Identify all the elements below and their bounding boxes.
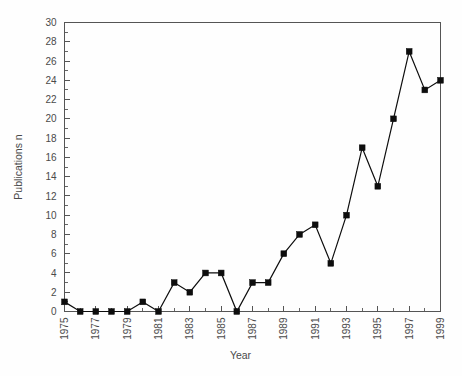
x-tick-label: 1985 — [216, 317, 227, 340]
x-tick-label: 1991 — [310, 317, 321, 340]
data-point-marker — [77, 309, 83, 315]
y-axis-title: Publications n — [12, 134, 24, 200]
y-tick-label: 6 — [51, 248, 57, 259]
y-tick-label: 10 — [45, 210, 57, 221]
y-tick-label: 24 — [45, 75, 57, 86]
y-tick-label: 14 — [45, 171, 57, 182]
data-point-marker — [109, 309, 115, 315]
data-point-marker — [344, 212, 350, 218]
x-tick-label: 1979 — [122, 317, 133, 340]
y-tick-label: 18 — [45, 133, 57, 144]
data-point-marker — [297, 232, 303, 238]
data-point-marker — [140, 299, 146, 305]
data-point-marker — [406, 49, 412, 55]
data-point-marker — [171, 280, 177, 286]
chart-svg: 024681012141618202224262830 197519771979… — [0, 0, 462, 376]
publications-line-chart: 024681012141618202224262830 197519771979… — [0, 0, 462, 376]
x-tick-label: 1981 — [153, 317, 164, 340]
data-point-marker — [422, 87, 428, 93]
data-point-marker — [438, 77, 444, 83]
y-tick-label: 0 — [51, 306, 57, 317]
data-point-marker — [218, 270, 224, 276]
data-point-marker — [187, 289, 193, 295]
y-tick-label: 20 — [45, 113, 57, 124]
x-tick-label: 1993 — [341, 317, 352, 340]
data-point-marker — [124, 309, 130, 315]
x-tick-label: 1987 — [247, 317, 258, 340]
data-point-marker — [62, 299, 68, 305]
x-tick-label: 1975 — [59, 317, 70, 340]
data-point-marker — [391, 116, 397, 122]
data-point-marker — [359, 145, 365, 151]
data-point-marker — [93, 309, 99, 315]
x-tick-label: 1997 — [404, 317, 415, 340]
x-axis-title: Year — [230, 349, 252, 361]
x-tick-label: 1977 — [90, 317, 101, 340]
x-tick-label: 1995 — [372, 317, 383, 340]
data-point-marker — [312, 222, 318, 228]
y-tick-label: 16 — [45, 152, 57, 163]
data-point-marker — [265, 280, 271, 286]
data-point-marker — [281, 251, 287, 257]
data-point-marker — [234, 309, 240, 315]
data-point-marker — [375, 183, 381, 189]
y-tick-label: 28 — [45, 36, 57, 47]
y-tick-label: 8 — [51, 229, 57, 240]
y-tick-label: 4 — [51, 268, 57, 279]
x-tick-label: 1999 — [435, 317, 446, 340]
x-tick-label: 1989 — [278, 317, 289, 340]
data-point-marker — [250, 280, 256, 286]
x-tick-label: 1983 — [184, 317, 195, 340]
data-point-marker — [156, 309, 162, 315]
data-point-marker — [203, 270, 209, 276]
y-tick-label: 22 — [45, 94, 57, 105]
y-tick-label: 26 — [45, 56, 57, 67]
y-tick-label: 2 — [51, 287, 57, 298]
y-tick-label: 12 — [45, 191, 57, 202]
y-tick-label: 30 — [45, 17, 57, 28]
data-point-marker — [328, 260, 334, 266]
